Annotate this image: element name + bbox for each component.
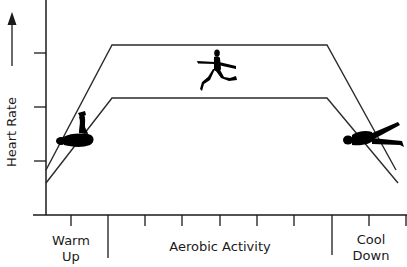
y-ticks: [34, 53, 46, 161]
phase-label-warm-up-line1: Warm: [52, 233, 90, 248]
heart-rate-diagram: Heart Rate: [0, 0, 407, 267]
x-ticks: [71, 215, 406, 226]
running-figure-icon: [197, 50, 237, 92]
phase-label-warm-up-line2: Up: [62, 249, 80, 264]
y-axis-label: Heart Rate: [4, 97, 19, 167]
up-arrow-icon: [8, 12, 17, 66]
phase-label-aerobic-activity: Aerobic Activity: [169, 239, 271, 254]
reclining-figure-icon: [343, 122, 404, 147]
phase-label-cool-down-line2: Down: [353, 248, 390, 263]
phase-label-cool-down-line1: Cool: [357, 232, 386, 247]
